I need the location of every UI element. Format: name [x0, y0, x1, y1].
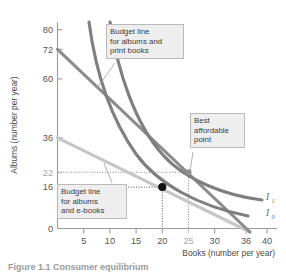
x-tick-label-30: 30: [210, 236, 220, 246]
x-tick-label-10: 10: [105, 236, 115, 246]
curve-label-I0: I 0: [265, 208, 276, 220]
affordable-point-marker: [158, 183, 166, 191]
x-tick-label-15: 15: [131, 236, 141, 246]
figure-caption: Figure 1.1 Consumer equilibrium: [8, 262, 149, 272]
callout-budget-line-print-books: Budget line for albums and print books: [106, 24, 184, 59]
x-tick-label-5: 5: [81, 236, 86, 246]
callout-best-affordable-point: Best affordable point: [190, 113, 245, 148]
y-tick-label-36: 36: [43, 133, 53, 143]
y-tick-label-72: 72: [43, 45, 53, 55]
y-tick-label-0: 0: [48, 224, 53, 234]
x-tick-marks: [84, 229, 267, 234]
leader-line-ebooks: [104, 163, 112, 183]
x-tick-label-25: 25: [183, 236, 193, 246]
y-tick-label-22: 22: [43, 168, 53, 178]
y-axis-title: Albums (number per year): [9, 76, 19, 173]
curve-label-I1-text: I: [265, 192, 270, 202]
x-tick-label-36: 36: [241, 236, 251, 246]
y-tick-label-80: 80: [43, 25, 53, 35]
x-tick-label-20: 20: [157, 236, 167, 246]
curve-label-I1: I 1: [265, 192, 275, 204]
curve-label-I0-subscript: 0: [272, 213, 276, 220]
curve-label-I0-text: I: [265, 208, 270, 218]
y-tick-label-16: 16: [43, 182, 53, 192]
best-affordable-point-marker: [186, 169, 192, 175]
callout-budget-line-ebooks: Budget line for albums and e-books: [57, 184, 127, 219]
x-axis-title: Books (number per year): [182, 248, 275, 258]
leader-line-best-affordable: [190, 152, 193, 171]
curve-label-I1-subscript: 1: [272, 197, 275, 204]
y-tick-label-60: 60: [43, 74, 53, 84]
x-tick-label-40: 40: [262, 236, 272, 246]
